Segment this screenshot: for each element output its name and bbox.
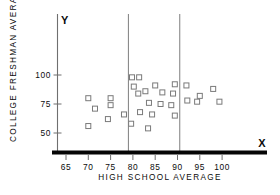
data-point	[129, 121, 134, 126]
y-axis-letter: Y	[61, 14, 69, 26]
data-point	[137, 75, 142, 80]
data-point	[136, 91, 141, 96]
data-point	[105, 117, 110, 122]
scatter-plot-figure: 5075100 65707580859095100 COLLEGE FRESHM…	[0, 0, 280, 195]
data-point	[184, 83, 189, 88]
data-point	[92, 106, 97, 111]
data-point	[217, 99, 222, 104]
x-tick-label-95: 95	[195, 162, 206, 172]
x-axis-title: HIGH SCHOOL AVERAGE	[98, 173, 221, 182]
x-tick-label-65: 65	[61, 162, 72, 172]
data-point	[121, 112, 126, 117]
data-point	[108, 96, 113, 101]
data-point	[143, 89, 148, 94]
y-tick-label-75: 75	[40, 99, 51, 109]
data-point	[211, 86, 216, 91]
data-point	[185, 98, 190, 103]
data-point	[160, 90, 165, 95]
data-point	[153, 83, 158, 88]
x-tick-label-90: 90	[172, 162, 183, 172]
x-tick-label-85: 85	[150, 162, 161, 172]
x-tick-label-70: 70	[83, 162, 94, 172]
data-point	[197, 93, 202, 98]
data-point	[86, 96, 91, 101]
data-point	[150, 112, 155, 117]
y-tick-label-100: 100	[35, 70, 51, 80]
data-point	[130, 75, 135, 80]
data-point	[146, 126, 151, 131]
data-point	[171, 91, 176, 96]
data-point	[195, 99, 200, 104]
y-tick-label-50: 50	[40, 128, 51, 138]
plot-background	[0, 0, 280, 195]
data-point	[131, 84, 136, 89]
x-axis-letter: X	[258, 137, 266, 149]
x-tick-label-75: 75	[105, 162, 116, 172]
y-axis-title: COLLEGE FRESHMAN AVERAGE	[9, 0, 18, 142]
data-point	[169, 103, 174, 108]
data-point	[158, 102, 163, 107]
x-axis-baseline	[52, 151, 267, 155]
data-point	[172, 113, 177, 118]
x-tick-label-80: 80	[128, 162, 139, 172]
data-point	[86, 124, 91, 129]
data-point	[146, 100, 151, 105]
chart-canvas: 5075100 65707580859095100 COLLEGE FRESHM…	[0, 0, 280, 195]
x-tick-label-100: 100	[214, 162, 230, 172]
data-point	[138, 110, 143, 115]
data-point	[108, 103, 113, 108]
data-point	[172, 82, 177, 87]
